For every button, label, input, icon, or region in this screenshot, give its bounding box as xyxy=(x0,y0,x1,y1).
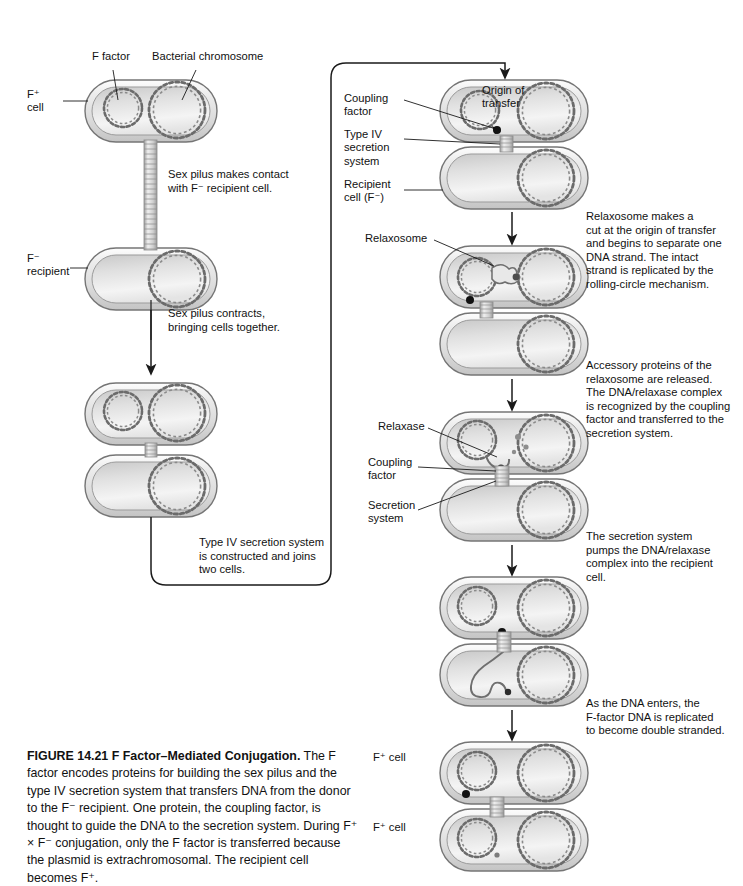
label-coupling-factor-2: Coupling factor xyxy=(368,456,412,483)
figure-caption: FIGURE 14.21 F Factor–Mediated Conjugati… xyxy=(27,748,360,886)
label-relaxosome: Relaxosome xyxy=(365,232,427,245)
step-type-iv-constructed: Type IV secretion system is constructed … xyxy=(199,536,324,577)
label-coupling-factor: Coupling factor xyxy=(344,92,388,119)
step-sex-pilus-contracts: Sex pilus contracts, bringing cells toge… xyxy=(168,307,280,334)
cell-donor-7 xyxy=(440,742,588,804)
cell-donor-2 xyxy=(85,383,217,445)
label-f-plus-cell-bottom: F⁺ cell xyxy=(373,821,406,834)
secretion-channel-left xyxy=(145,443,157,457)
cell-donor-1 xyxy=(85,80,217,142)
cell-donor-6 xyxy=(440,577,588,639)
label-f-plus-cell: F⁺ cell xyxy=(27,88,44,115)
step-secretion-pumps: The secretion system pumps the DNA/relax… xyxy=(586,530,713,584)
cell-recipient-6 xyxy=(440,644,588,706)
cell-recipient-4 xyxy=(440,313,588,375)
secretion-channel-3 xyxy=(500,136,513,152)
cell-recipient-5 xyxy=(440,479,588,541)
label-f-minus-recipient: F⁻ recipient xyxy=(27,252,69,279)
label-f-plus-cell-top: F⁺ cell xyxy=(373,751,406,764)
label-type-iv-secretion-system: Type IV secretion system xyxy=(344,128,389,168)
cell-recipient-3 xyxy=(440,147,588,209)
label-bacterial-chromosome: Bacterial chromosome xyxy=(152,50,263,63)
step-sex-pilus-contact: Sex pilus makes contact with F⁻ recipien… xyxy=(168,168,289,195)
figure-number: FIGURE 14.21 xyxy=(27,749,108,763)
secretion-channel-7 xyxy=(490,797,504,817)
secretion-channel-5 xyxy=(495,466,509,486)
cell-recipient-2 xyxy=(85,455,217,517)
label-relaxase: Relaxase xyxy=(378,420,425,433)
step-accessory-proteins: Accessory proteins of the relaxosome are… xyxy=(586,359,730,441)
secretion-channel-6 xyxy=(497,632,511,652)
cell-donor-5 xyxy=(440,412,588,474)
figure-caption-body: The F factor encodes proteins for buildi… xyxy=(27,749,357,885)
label-recipient-cell: Recipient cell (F⁻) xyxy=(344,178,391,205)
sex-pilus-long xyxy=(144,140,157,250)
cell-donor-4 xyxy=(440,246,588,308)
step-relaxosome-cut: Relaxosome makes a cut at the origin of … xyxy=(586,210,722,292)
label-secretion-system: Secretion system xyxy=(368,499,415,526)
figure-title: F Factor–Mediated Conjugation. xyxy=(112,749,301,763)
cell-recipient-7 xyxy=(440,809,588,871)
secretion-channel-4 xyxy=(480,302,493,318)
label-origin-of-transfer: Origin of transfer xyxy=(482,84,524,111)
step-dna-enters: As the DNA enters, the F-factor DNA is r… xyxy=(586,697,725,738)
label-f-factor: F factor xyxy=(92,50,130,63)
